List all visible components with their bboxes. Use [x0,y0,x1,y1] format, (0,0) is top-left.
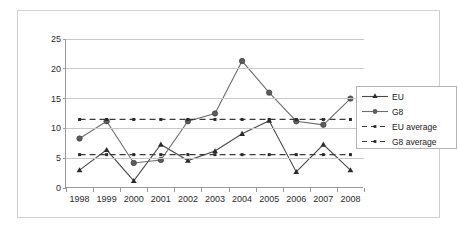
x-axis-tick [174,188,175,192]
data-point-marker [239,58,244,63]
y-axis-tick [63,98,66,99]
data-point-marker [78,153,81,156]
data-point-marker [214,153,217,156]
gridline [66,68,364,69]
data-point-marker [320,142,326,147]
y-axis-label: 5 [56,153,61,163]
data-point-marker [132,153,135,156]
legend-sample-eu-average [361,121,389,132]
chart-legend: EU G8 EU average [356,86,457,149]
data-point-marker [158,142,164,147]
data-point-marker [241,118,244,121]
x-axis-label: 2008 [340,194,360,204]
data-point-marker [295,118,298,121]
data-point-marker [104,147,110,152]
x-axis-tick [283,188,284,192]
x-axis-tick [120,188,121,192]
legend-item-g8-average[interactable]: G8 average [361,134,436,149]
data-point-marker [266,90,271,95]
gridline [66,158,364,159]
chart-outer-frame: 0510152025199819992000200120022003200420… [17,10,440,218]
data-point-marker [105,153,108,156]
x-axis-label: 2002 [178,194,198,204]
x-axis-label: 2005 [259,194,279,204]
y-axis-label: 0 [56,183,61,193]
data-point-marker [212,148,218,153]
y-axis-tick [63,158,66,159]
x-axis-label: 2004 [232,194,252,204]
data-point-marker [212,111,217,116]
data-point-marker [186,118,189,121]
x-axis-tick [66,188,67,192]
legend-sample-g8 [361,106,389,117]
y-axis-tick [63,39,66,40]
x-axis-tick [147,188,148,192]
data-point-marker [159,118,162,121]
x-axis-tick [337,188,338,192]
x-axis-tick [310,188,311,192]
data-point-marker [241,153,244,156]
data-point-marker [186,153,189,156]
data-point-marker [105,118,108,121]
y-axis-tick [63,68,66,69]
y-axis-label: 25 [51,34,61,44]
data-point-marker [239,131,245,136]
plot-area: 0510152025199819992000200120022003200420… [65,39,363,188]
legend-label-g8-average: G8 average [392,137,436,147]
data-point-marker [349,118,352,121]
x-axis-tick [201,188,202,192]
y-axis-label: 10 [51,123,61,133]
data-point-marker [322,118,325,121]
legend-sample-eu [361,91,389,102]
x-axis-label: 2000 [124,194,144,204]
series-layer [66,39,364,188]
data-point-marker [322,153,325,156]
legend-label-g8: G8 [392,107,403,117]
x-axis-label: 2001 [151,194,171,204]
data-point-marker [321,122,326,127]
x-axis-label: 2003 [205,194,225,204]
x-axis-tick [256,188,257,192]
x-axis-label: 1998 [70,194,90,204]
chart-figure: 0510152025199819992000200120022003200420… [0,0,458,232]
x-axis-label: 1999 [97,194,117,204]
legend-item-eu[interactable]: EU [361,89,404,104]
y-axis-label: 15 [51,94,61,104]
y-axis-tick [63,128,66,129]
legend-sample-g8-average [361,136,389,147]
data-point-marker [295,153,298,156]
data-point-marker [132,118,135,121]
x-axis-label: 2006 [286,194,306,204]
data-point-marker [131,160,136,165]
legend-item-g8[interactable]: G8 [361,104,403,119]
data-point-marker [214,118,217,121]
gridline [66,98,364,99]
legend-label-eu-average: EU average [392,122,437,132]
data-point-marker [349,153,352,156]
x-axis-tick [364,188,365,192]
data-point-marker [77,136,82,141]
y-axis-label: 20 [51,64,61,74]
gridline [66,128,364,129]
x-axis-tick [93,188,94,192]
legend-item-eu-average[interactable]: EU average [361,119,437,134]
gridline [66,39,364,40]
x-axis-tick [229,188,230,192]
data-point-marker [159,153,162,156]
x-axis-label: 2007 [313,194,333,204]
data-point-marker [268,153,271,156]
data-point-marker [268,118,271,121]
data-point-marker [78,118,81,121]
legend-label-eu: EU [392,92,404,102]
